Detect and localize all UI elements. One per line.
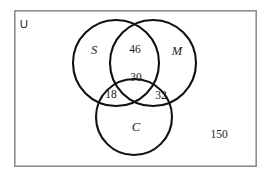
region-count-s-and-m: 46 xyxy=(129,43,141,55)
venn-diagram-figure: U S M C 46 30 18 32 150 xyxy=(0,0,272,179)
region-count-s-and-m-and-c: 30 xyxy=(130,71,142,83)
venn-diagram-canvas: U S M C 46 30 18 32 150 xyxy=(0,0,272,179)
set-label-c: C xyxy=(132,120,141,134)
set-label-s: S xyxy=(91,43,98,57)
universal-set-rectangle xyxy=(15,11,256,166)
universal-set-symbol: U xyxy=(20,18,28,30)
region-count-m-and-c: 32 xyxy=(155,89,167,101)
set-circle-m xyxy=(110,20,196,106)
set-label-m: M xyxy=(171,44,183,58)
region-count-s-and-c: 18 xyxy=(105,88,117,100)
region-count-outside-sets: 150 xyxy=(210,128,228,140)
